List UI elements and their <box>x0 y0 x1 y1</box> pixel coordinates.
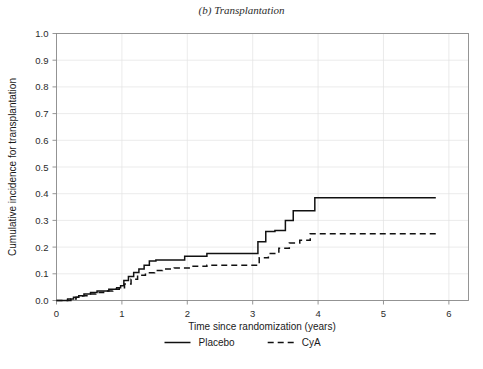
x-tick-label: 2 <box>185 308 190 319</box>
y-tick-label: 0.1 <box>35 268 48 279</box>
x-axis-title: Time since randomization (years) <box>188 321 335 332</box>
y-tick-label: 0.9 <box>35 55 48 66</box>
y-axis-ticks: 0.00.10.20.30.40.50.60.70.80.91.0 <box>35 28 56 306</box>
x-tick-label: 6 <box>446 308 451 319</box>
y-axis-title: Cumulative incidence for transplantation <box>7 78 18 256</box>
figure-container: (b) Transplantation 0123456 0.00.10.20.3… <box>0 0 483 369</box>
chart-legend: PlaceboCyA <box>165 337 321 348</box>
y-tick-label: 0.6 <box>35 135 48 146</box>
y-tick-label: 0.3 <box>35 215 48 226</box>
legend-label-placebo: Placebo <box>199 337 236 348</box>
x-axis-ticks: 0123456 <box>54 301 452 319</box>
legend-label-cya: CyA <box>302 337 321 348</box>
x-tick-label: 4 <box>315 308 320 319</box>
y-tick-label: 0.0 <box>35 295 48 306</box>
y-tick-label: 1.0 <box>35 28 48 39</box>
y-tick-label: 0.4 <box>35 188 48 199</box>
y-tick-label: 0.2 <box>35 242 48 253</box>
x-tick-label: 1 <box>119 308 124 319</box>
x-tick-label: 3 <box>250 308 255 319</box>
x-tick-label: 5 <box>381 308 386 319</box>
series-line-placebo <box>57 198 436 301</box>
x-tick-label: 0 <box>54 308 59 319</box>
y-tick-label: 0.8 <box>35 81 48 92</box>
data-series-group <box>57 198 436 301</box>
chart-title: (b) Transplantation <box>199 4 285 17</box>
grid-lines <box>57 34 469 301</box>
y-tick-label: 0.5 <box>35 162 48 173</box>
y-tick-label: 0.7 <box>35 108 48 119</box>
series-line-cya <box>57 234 436 301</box>
cumulative-incidence-chart: (b) Transplantation 0123456 0.00.10.20.3… <box>0 0 483 369</box>
